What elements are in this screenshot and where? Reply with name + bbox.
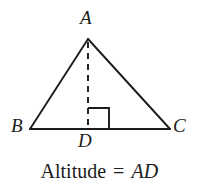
side-ac-line xyxy=(88,39,170,129)
caption-equals-sign: = xyxy=(111,160,126,182)
caption-prefix: Altitude xyxy=(41,160,107,182)
right-angle-marker-icon xyxy=(88,108,109,129)
vertex-label-b: B xyxy=(11,116,23,135)
figure-caption: Altitude = AD xyxy=(0,160,199,182)
vertex-label-c: C xyxy=(173,116,186,135)
vertex-label-a: A xyxy=(80,8,92,27)
side-ab-line xyxy=(30,39,88,129)
vertex-label-d: D xyxy=(78,131,92,150)
caption-segment-name: AD xyxy=(131,160,158,182)
altitude-figure: A B C D Altitude = AD xyxy=(0,0,199,194)
